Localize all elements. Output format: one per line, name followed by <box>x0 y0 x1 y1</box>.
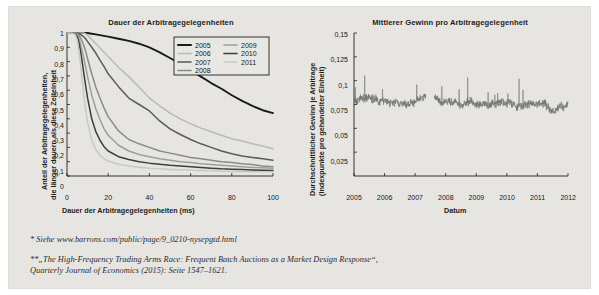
chart-left-xtick-20: 20 <box>100 194 116 201</box>
chart-left-ytick-07: 0,7 <box>44 76 64 83</box>
chart-left-ytick-03: 0,3 <box>44 137 64 144</box>
chart-right-xtick-2009: 2009 <box>465 194 487 201</box>
chart-right-xtick-2005: 2005 <box>343 194 365 201</box>
figure-page: Dauer der Arbitragegelegenheiten Anteil … <box>0 0 599 295</box>
chart-left-legend-2007: 2007 <box>195 59 211 66</box>
chart-left-ytick-0: 0 <box>44 183 64 190</box>
chart-right-xlabel: Datum <box>444 206 466 215</box>
chart-right-ytick-0125: 0,125 <box>322 56 348 63</box>
chart-left-title: Dauer der Arbitragegelegenheiten <box>46 18 296 27</box>
footnote-barrons: * Siehe www.barrons.com/public/page/9_02… <box>30 234 237 245</box>
chart-left-legend-2006: 2006 <box>195 50 211 57</box>
chart-left-ytick-08: 0,8 <box>44 61 64 68</box>
chart-right-plot <box>354 33 568 190</box>
chart-left-legend-2005: 2005 <box>195 42 211 49</box>
chart-left-legend-2011: 2011 <box>241 59 256 66</box>
chart-left-xtick-80: 80 <box>224 194 240 201</box>
chart-left-ylabel-line2: die länger dauern als diese Zeiteinheit <box>49 70 58 200</box>
chart-left-xlabel: Dauer der Arbitragegelegenheiten (ms) <box>62 206 195 215</box>
footnote-qje-line1: **„The High-Frequency Trading Arms Race:… <box>30 254 378 265</box>
chart-right-xtick-2007: 2007 <box>404 194 426 201</box>
chart-left-legend-2009: 2009 <box>241 42 257 49</box>
chart-left-xtick-60: 60 <box>183 194 199 201</box>
chart-right-xtick-2012: 2012 <box>557 194 579 201</box>
footnote-qje-line2: Quarterly Journal of Economics (2015): S… <box>30 265 227 276</box>
chart-right-xtick-2008: 2008 <box>435 194 457 201</box>
chart-left-legend-2010: 2010 <box>241 50 257 57</box>
chart-right-ytick-0075: 0,075 <box>322 107 348 114</box>
chart-right-title: Mittlerer Gewinn pro Arbitragegelegenhei… <box>320 18 580 27</box>
chart-left-ytick-09: 0,9 <box>44 45 64 52</box>
chart-left-legend-2008: 2008 <box>195 67 211 74</box>
chart-right-xtick-2010: 2010 <box>496 194 518 201</box>
chart-right-xtick-2011: 2011 <box>527 194 549 201</box>
chart-left-ytick-05: 0,5 <box>44 107 64 114</box>
chart-right-ylabel-line1: Durchschnittlicher Gewinn je Arbitrage <box>308 63 317 196</box>
chart-left-duration: Dauer der Arbitragegelegenheiten Anteil … <box>26 18 298 218</box>
chart-right-profit: Mittlerer Gewinn pro Arbitragegelegenhei… <box>300 18 585 218</box>
chart-left-ytick-01: 0,1 <box>44 168 64 175</box>
chart-right-ytick-01: 0,1 <box>322 82 348 89</box>
chart-right-ytick-0025: 0,025 <box>322 158 348 165</box>
chart-left-ytick-04: 0,4 <box>44 122 64 129</box>
chart-left-xtick-40: 40 <box>141 194 157 201</box>
chart-left-plot: 2005200620072008200920102011 <box>67 33 273 190</box>
chart-left-ytick-06: 0,6 <box>44 91 64 98</box>
chart-left-xtick-0: 0 <box>59 194 75 201</box>
chart-right-xtick-2006: 2006 <box>374 194 396 201</box>
chart-left-xtick-100: 100 <box>264 194 282 201</box>
chart-left-ytick-1: 1 <box>44 30 64 37</box>
chart-right-ytick-005: 0,05 <box>322 132 348 139</box>
chart-left-ytick-02: 0,2 <box>44 152 64 159</box>
chart-right-ytick-015: 0,15 <box>322 31 348 38</box>
